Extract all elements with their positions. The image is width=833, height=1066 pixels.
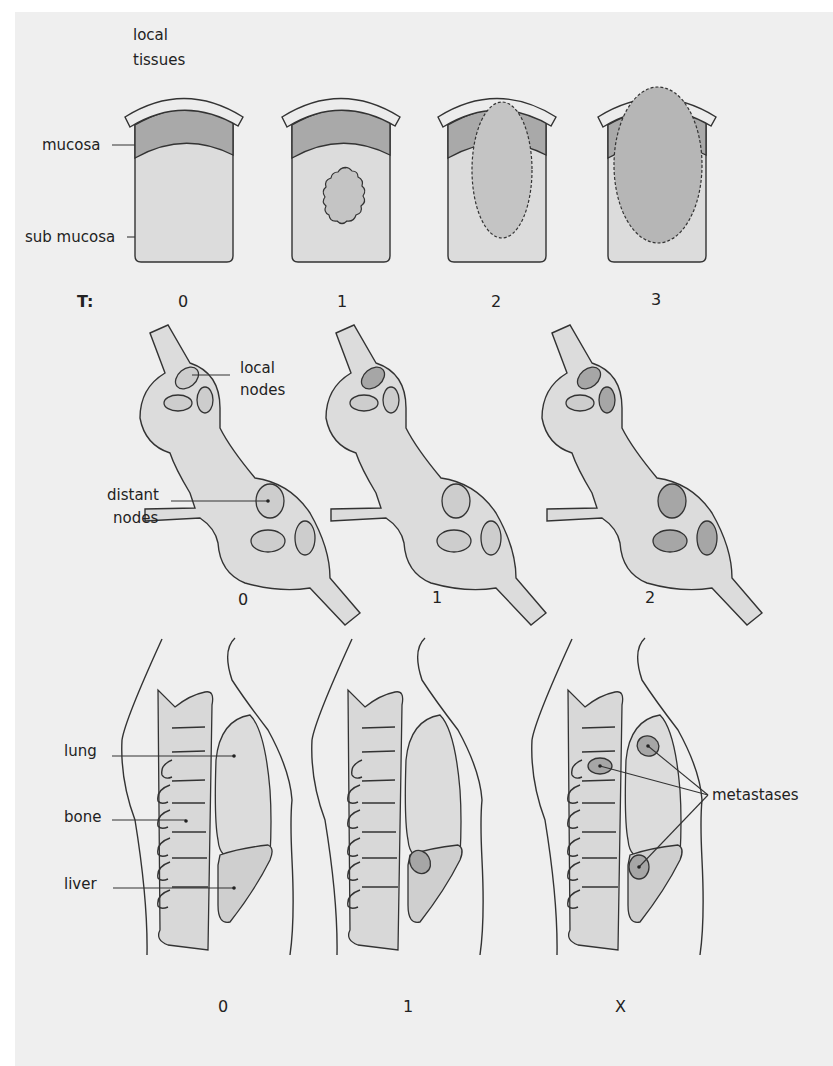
- label-metastases: metastases: [712, 786, 799, 804]
- t-stage-label-3: 3: [651, 290, 661, 309]
- n-stage-label-2: 2: [645, 588, 655, 607]
- m-stage-x-torso: [532, 638, 708, 955]
- t-stage-3-block: [598, 87, 716, 262]
- label-local-nodes-2: nodes: [240, 381, 285, 399]
- label-local-tissues-2: tissues: [133, 51, 185, 69]
- label-distant-nodes-1: distant: [107, 486, 159, 504]
- n-stage-label-1: 1: [432, 588, 442, 607]
- t-stage-0-block: [125, 99, 243, 263]
- n-stage-1-chain: [326, 325, 546, 625]
- label-local-nodes-1: local: [240, 359, 275, 377]
- t-stage-label-2: 2: [491, 292, 501, 311]
- t-stage-2-block: [438, 99, 556, 263]
- n-stage-2-chain: [542, 325, 762, 625]
- t-stage-label-1: 1: [337, 292, 347, 311]
- m-stage-1-torso: [312, 638, 483, 955]
- t-prefix: T:: [77, 292, 93, 311]
- m-stage-label-x: X: [615, 997, 626, 1016]
- m-section: lung bone liver: [64, 638, 799, 1016]
- t-stage-1-block: [282, 99, 400, 263]
- tnm-staging-diagram: local tissues mucosa sub mucosa T: 0 1 2…: [0, 0, 833, 1066]
- n-stage-label-0: 0: [238, 590, 248, 609]
- m-stage-label-0: 0: [218, 997, 228, 1016]
- t-stage-label-0: 0: [178, 292, 188, 311]
- m-stage-0-torso: [112, 638, 293, 955]
- n-section: local nodes distant nodes 0 1 2: [107, 325, 762, 625]
- label-sub-mucosa: sub mucosa: [25, 228, 115, 246]
- label-liver: liver: [64, 875, 97, 893]
- m-stage-label-1: 1: [403, 997, 413, 1016]
- t-section: local tissues mucosa sub mucosa T: 0 1 2…: [25, 26, 716, 311]
- label-bone: bone: [64, 808, 101, 826]
- label-mucosa: mucosa: [42, 136, 101, 154]
- label-lung: lung: [64, 742, 97, 760]
- label-distant-nodes-2: nodes: [113, 509, 158, 527]
- label-local-tissues-1: local: [133, 26, 168, 44]
